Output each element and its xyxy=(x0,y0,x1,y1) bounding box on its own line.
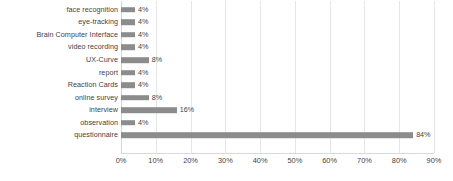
value-label: 4% xyxy=(138,119,148,127)
x-tick-label: 20% xyxy=(183,155,198,167)
bar-row: UX-Curve8% xyxy=(0,54,453,67)
bar-row: Brain Computer Interface4% xyxy=(0,29,453,42)
category-label: UX-Curve xyxy=(86,56,118,64)
value-label: 4% xyxy=(138,6,148,14)
value-label: 8% xyxy=(152,56,162,64)
category-label: eye-tracking xyxy=(78,18,118,26)
value-label: 4% xyxy=(138,31,148,39)
bar-row: observation4% xyxy=(0,116,453,129)
x-tick-label: 90% xyxy=(427,155,442,167)
x-axis-line xyxy=(121,153,434,154)
bar-row: video recording4% xyxy=(0,41,453,54)
bar-row: Reaction Cards4% xyxy=(0,79,453,92)
bar[interactable] xyxy=(121,70,135,76)
x-axis: 0%10%20%30%40%50%60%70%80%90% xyxy=(0,155,453,169)
bar[interactable] xyxy=(121,133,413,139)
x-tick-label: 60% xyxy=(322,155,337,167)
category-label: face recognition xyxy=(66,6,118,14)
bar-row: interview16% xyxy=(0,104,453,117)
category-label: questionnaire xyxy=(74,131,118,139)
x-tick-label: 70% xyxy=(357,155,372,167)
x-tick-label: 80% xyxy=(392,155,407,167)
x-tick-label: 0% xyxy=(116,155,127,167)
x-tick-label: 40% xyxy=(253,155,268,167)
category-label: report xyxy=(99,69,118,77)
bar-row: eye-tracking4% xyxy=(0,16,453,29)
bar[interactable] xyxy=(121,120,135,126)
category-label: observation xyxy=(80,119,118,127)
bar[interactable] xyxy=(121,45,135,51)
bar[interactable] xyxy=(121,107,177,113)
category-label: Reaction Cards xyxy=(68,81,118,89)
x-tick-label: 30% xyxy=(218,155,233,167)
value-label: 8% xyxy=(152,94,162,102)
category-label: Brain Computer Interface xyxy=(37,31,119,39)
bar-rows: face recognition4%eye-tracking4%Brain Co… xyxy=(0,0,453,152)
x-tick-label: 50% xyxy=(287,155,302,167)
bar-row: face recognition4% xyxy=(0,4,453,17)
bar-row: report4% xyxy=(0,66,453,79)
bar[interactable] xyxy=(121,57,149,63)
value-label: 4% xyxy=(138,81,148,89)
value-label: 4% xyxy=(138,43,148,51)
bar[interactable] xyxy=(121,82,135,88)
bar[interactable] xyxy=(121,7,135,13)
category-label: interview xyxy=(89,106,118,114)
category-label: video recording xyxy=(68,43,118,51)
category-label: online survey xyxy=(75,94,118,102)
x-tick-label: 10% xyxy=(148,155,163,167)
bar-row: questionnaire84% xyxy=(0,129,453,142)
bar[interactable] xyxy=(121,32,135,38)
bar-chart: face recognition4%eye-tracking4%Brain Co… xyxy=(0,0,453,181)
value-label: 84% xyxy=(416,131,430,139)
bar[interactable] xyxy=(121,95,149,101)
value-label: 4% xyxy=(138,18,148,26)
value-label: 4% xyxy=(138,69,148,77)
value-label: 16% xyxy=(180,106,194,114)
bar[interactable] xyxy=(121,20,135,26)
bar-row: online survey8% xyxy=(0,91,453,104)
